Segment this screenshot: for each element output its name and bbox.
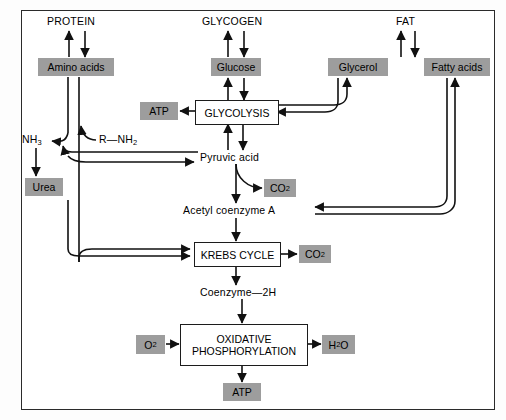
node-glycolysis[interactable]: GLYCOLYSIS [195, 100, 279, 125]
node-co2-krebs[interactable]: CO2 [299, 245, 331, 263]
edge-acetylcoa-fattyacids [315, 78, 455, 214]
edge-amino-to-pyruvate [68, 156, 194, 162]
label-nh3: NH3 [22, 133, 42, 147]
label-protein: PROTEIN [47, 15, 95, 27]
node-urea[interactable]: Urea [25, 178, 63, 196]
node-krebs-cycle[interactable]: KREBS CYCLE [194, 242, 281, 267]
diagram-canvas: PROTEIN GLYCOGEN FAT NH3 R—NH2 Pyruvic a… [0, 0, 506, 420]
label-acetyl-coenzyme-a: Acetyl coenzyme A [183, 204, 275, 216]
edge-amino-krebs-a [68, 200, 190, 256]
label-coenzyme-2h: Coenzyme—2H [200, 286, 276, 298]
edge-glycolysis-glycerol [277, 78, 347, 105]
edge-glycerol-glycolysis [277, 78, 338, 112]
node-h2o[interactable]: H2O [322, 335, 355, 354]
node-o2[interactable]: O2 [136, 335, 165, 354]
node-amino-acids[interactable]: Amino acids [38, 58, 114, 76]
label-r-nh2: R—NH2 [99, 133, 137, 147]
edge-fattyacids-acetylcoa [315, 78, 447, 207]
label-fat: FAT [396, 15, 415, 27]
edge-rnh2-amino [81, 126, 96, 140]
node-glucose[interactable]: Glucose [211, 58, 261, 76]
node-fatty-acids[interactable]: Fatty acids [424, 58, 490, 76]
label-glycogen: GLYCOGEN [202, 15, 262, 27]
node-atp-glycolysis[interactable]: ATP [140, 102, 178, 120]
edge-pyruvate-co2 [236, 164, 262, 188]
node-oxidative-phosphorylation[interactable]: OXIDATIVE PHOSPHORYLATION [180, 324, 308, 366]
node-atp-oxphos[interactable]: ATP [223, 383, 261, 401]
node-co2-pyruvate[interactable]: CO2 [264, 179, 296, 197]
node-glycerol[interactable]: Glycerol [328, 58, 388, 76]
edge-amino-nh3 [52, 133, 68, 141]
label-pyruvic-acid: Pyruvic acid [200, 151, 259, 163]
